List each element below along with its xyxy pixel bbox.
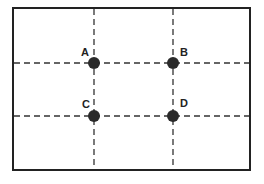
point-c-dot <box>88 110 100 122</box>
point-d-dot <box>167 110 179 122</box>
point-b-label: B <box>180 46 188 58</box>
frame-border <box>13 8 250 170</box>
point-a-label: A <box>81 46 89 58</box>
rule-of-thirds-diagram: A B C D <box>0 0 264 184</box>
point-c-label: C <box>82 98 90 110</box>
point-d-label: D <box>180 97 188 109</box>
point-a-dot <box>88 57 100 69</box>
point-b-dot <box>167 57 179 69</box>
